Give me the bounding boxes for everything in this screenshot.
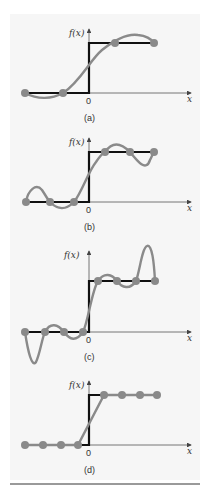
y-axis-label: f(x): [63, 250, 80, 260]
y-axis-label: f(x): [68, 28, 85, 38]
panel-caption: (b): [84, 222, 95, 232]
panel-d: f(x) x 0 (d): [21, 380, 192, 475]
origin-label: 0: [86, 448, 91, 458]
x-axis-label: x: [187, 333, 192, 343]
polynomial-curve: [25, 246, 155, 363]
panel-b: f(x) x 0 (b): [22, 137, 192, 232]
panel-caption: (c): [84, 352, 95, 362]
y-axis-label: f(x): [68, 380, 85, 390]
interpolation-figure: f(x) x 0 (a) f(x) x 0 (b) f(x) x 0 (c): [0, 0, 210, 494]
panel-a: f(x) x 0 (a): [21, 28, 192, 123]
step-function: [25, 43, 154, 93]
origin-label: 0: [86, 96, 91, 106]
panel-caption: (a): [84, 113, 95, 123]
panel-caption: (d): [84, 465, 95, 475]
origin-label: 0: [86, 205, 91, 215]
origin-label: 0: [86, 335, 91, 345]
bottom-rule: [10, 483, 200, 485]
linear-spline: [25, 395, 157, 445]
x-axis-label: x: [187, 94, 192, 104]
x-axis-label: x: [187, 446, 192, 456]
panel-c: f(x) x 0 (c): [21, 246, 192, 363]
x-axis-label: x: [187, 203, 192, 213]
y-axis-label: f(x): [68, 137, 85, 147]
